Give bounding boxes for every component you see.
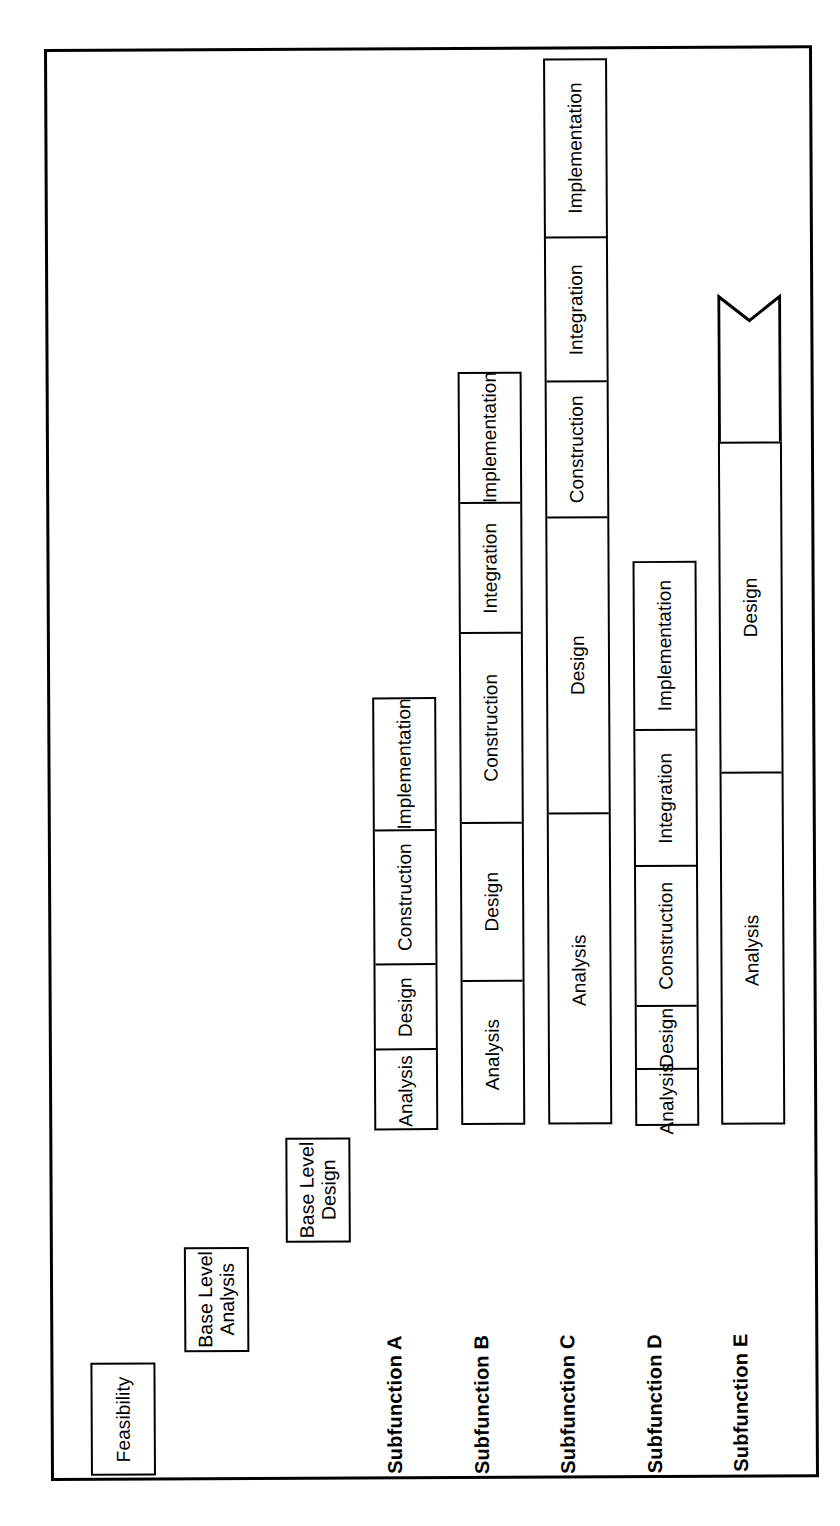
milestone-label: Base Level Analysis (195, 1251, 239, 1348)
row-label-subfunction-b: Subfunction B (470, 1335, 494, 1474)
segment-label: Analysis (483, 1018, 503, 1090)
segment-label: Analysis (742, 914, 762, 986)
milestone-label: Base Level Design (296, 1142, 340, 1239)
figure-frame: Feasibility Base Level Analysis Base Lev… (44, 45, 819, 1481)
segment-label: Analysis (396, 1055, 416, 1127)
segment-label: Design (741, 578, 761, 638)
bar-subfunction-b: Implementation Integration Construction … (458, 372, 526, 1125)
segment-label: Construction (395, 843, 415, 951)
segment-label: Design (396, 977, 416, 1037)
segment-label: Construction (656, 882, 676, 990)
segment-label: Integration (655, 752, 675, 843)
milestone-box-feasibility: Feasibility (90, 1362, 156, 1475)
segment-label: Design (482, 872, 502, 932)
segment-label: Implementation (480, 372, 501, 503)
segment-box: Design Analysis (718, 441, 785, 1124)
segment-label: Construction (481, 674, 501, 782)
bar-subfunction-c: Implementation Integration Construction … (543, 58, 612, 1124)
row-label-subfunction-e: Subfunction E (729, 1334, 753, 1472)
row-label-subfunction-a: Subfunction A (383, 1335, 407, 1474)
segment-label: Analysis (569, 935, 589, 1007)
row-label-subfunction-d: Subfunction D (643, 1334, 667, 1473)
bar-subfunction-d: Implementation Integration Construction … (633, 561, 700, 1126)
milestone-box-base-level-analysis: Base Level Analysis (184, 1247, 250, 1352)
segment-label: Integration (566, 264, 586, 355)
bar-subfunction-e: Design Analysis (717, 293, 785, 1124)
torn-end-segment (717, 293, 782, 443)
segment-label: Design (568, 635, 588, 695)
milestone-label: Feasibility (113, 1376, 133, 1462)
bar-subfunction-a: Implementation Construction Design Analy… (372, 697, 438, 1130)
segment-label: Implementation (565, 83, 586, 214)
segment-label: Design (657, 1008, 677, 1068)
segment-label: Integration (480, 522, 500, 613)
segment-label: Construction (567, 395, 587, 503)
segment-label: Analysis (657, 1063, 677, 1135)
segment-label: Implementation (655, 580, 676, 711)
milestone-box-base-level-design: Base Level Design (285, 1138, 351, 1243)
segment-label: Implementation (394, 699, 415, 830)
row-label-subfunction-c: Subfunction C (556, 1334, 580, 1473)
